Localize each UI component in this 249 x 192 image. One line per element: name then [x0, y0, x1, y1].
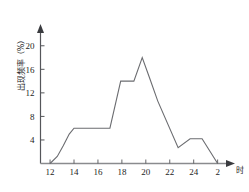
x-tick-label: 12 [46, 167, 55, 177]
y-tick-label: 12 [26, 88, 35, 98]
x-axis-title: 时 [236, 164, 244, 175]
x-tick-label: 2 [215, 167, 220, 177]
x-tick-label: 14 [70, 167, 80, 177]
y-axis-ticks: 48121620 [26, 41, 45, 145]
x-tick-label: 20 [141, 167, 151, 177]
y-axis-arrow-icon [37, 24, 44, 33]
x-tick-label: 24 [189, 167, 199, 177]
x-axis-arrow-icon [226, 160, 235, 167]
x-tick-label: 18 [117, 167, 127, 177]
line-chart: 48121620 121416182022242 出现频率（%） 时 [0, 0, 249, 192]
y-tick-label: 20 [26, 41, 36, 51]
frequency-line-series [50, 58, 218, 164]
y-axis-title: 出现频率（%） [15, 21, 26, 107]
x-tick-label: 16 [93, 167, 103, 177]
chart-canvas: 48121620 121416182022242 [0, 0, 249, 192]
y-tick-label: 16 [26, 65, 36, 75]
y-tick-label: 8 [30, 112, 35, 122]
y-tick-label: 4 [30, 135, 35, 145]
x-tick-label: 22 [165, 167, 174, 177]
x-axis-ticks: 121416182022242 [46, 160, 220, 177]
